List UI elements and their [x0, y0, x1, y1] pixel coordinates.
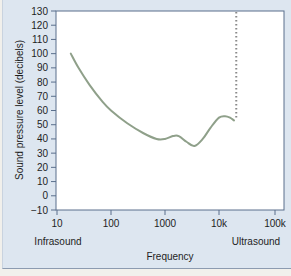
x-axis-ticks: 10100100010k100k	[51, 210, 286, 229]
hearing-threshold-chart: 1301201101009080706050403020100−10 10100…	[0, 0, 291, 276]
y-tick-label: 0	[42, 190, 48, 201]
x-tick-label: 100	[103, 218, 120, 229]
y-tick-label: 50	[37, 119, 49, 130]
y-tick-label: 10	[37, 176, 49, 187]
x-tick-label: 10k	[211, 218, 228, 229]
y-tick-label: 70	[37, 91, 49, 102]
y-tick-label: −10	[31, 205, 48, 216]
y-axis-ticks: 1301201101009080706050403020100−10	[31, 6, 56, 216]
y-tick-label: 90	[37, 62, 49, 73]
y-tick-label: 80	[37, 77, 49, 88]
y-tick-label: 130	[31, 6, 48, 17]
infrasound-label: Infrasound	[34, 236, 81, 247]
y-tick-label: 60	[37, 105, 49, 116]
y-tick-label: 20	[37, 162, 49, 173]
ultrasound-label: Ultrasound	[232, 236, 280, 247]
x-tick-label: 10	[51, 218, 63, 229]
x-axis-title: Frequency	[146, 251, 193, 262]
x-tick-label: 1000	[154, 218, 177, 229]
y-tick-label: 30	[37, 148, 49, 159]
x-tick-label: 100k	[264, 218, 287, 229]
y-tick-label: 40	[37, 133, 49, 144]
y-tick-label: 120	[31, 20, 48, 31]
y-tick-label: 100	[31, 48, 48, 59]
y-axis-title: Sound pressure level (decibels)	[14, 40, 25, 180]
y-tick-label: 110	[32, 34, 48, 45]
plot-area	[56, 11, 284, 210]
